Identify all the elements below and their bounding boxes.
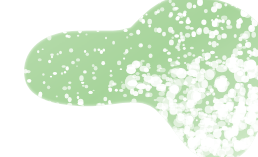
speckle-dot	[92, 72, 95, 75]
speckle-dot	[184, 62, 186, 64]
speckle-dot	[204, 9, 208, 13]
speckle-dot	[208, 85, 212, 90]
blob-artwork	[0, 0, 258, 157]
dissolve-blotch	[136, 76, 141, 81]
speckle-dot	[196, 29, 202, 35]
speckle-dot	[176, 16, 180, 19]
speckle-dot	[177, 48, 180, 51]
speckle-dot	[226, 19, 230, 25]
speckle-dot	[240, 33, 247, 38]
speckle-dot	[101, 61, 105, 65]
dissolve-blotch	[213, 104, 221, 111]
speckle-dot	[86, 52, 89, 56]
speckle-dot	[88, 91, 92, 94]
speckle-dot	[124, 29, 128, 32]
speckle-dot	[100, 50, 103, 54]
speckle-dot	[61, 72, 63, 74]
dissolve-blotch	[239, 106, 246, 113]
speckle-dot	[238, 43, 242, 47]
speckle-dot	[171, 30, 174, 34]
speckle-dot	[183, 97, 187, 101]
speckle-dot	[77, 35, 79, 37]
dissolve-blotch	[222, 143, 229, 148]
speckle-dot	[50, 76, 52, 78]
speckle-dot	[92, 64, 95, 67]
speckle-dot	[245, 102, 247, 105]
speckle-dot	[129, 33, 133, 36]
dissolve-blotch	[191, 65, 198, 69]
speckle-dot	[196, 149, 202, 153]
speckle-dot	[212, 41, 217, 47]
speckle-dot	[62, 86, 67, 90]
speckle-dot	[68, 82, 71, 84]
speckle-dot	[121, 81, 123, 82]
speckle-dot	[217, 15, 219, 17]
speckle-dot	[67, 86, 71, 90]
dissolve-blotch	[136, 63, 140, 67]
speckle-dot	[221, 28, 223, 30]
speckle-dot	[94, 66, 98, 70]
speckle-dot	[166, 77, 170, 82]
speckle-dot	[196, 119, 198, 121]
dissolve-blotch	[209, 139, 220, 147]
speckle-dot	[179, 21, 184, 24]
speckle-dot	[120, 68, 122, 70]
speckle-dot	[148, 67, 151, 69]
speckle-dot	[130, 47, 132, 49]
dissolve-blotch	[145, 92, 149, 97]
speckle-dot	[222, 55, 226, 60]
speckle-dot	[83, 70, 87, 73]
speckle-dot	[178, 40, 180, 42]
speckle-dot	[209, 36, 212, 38]
speckle-dot	[94, 48, 97, 52]
dissolve-blotch	[196, 71, 205, 82]
image-canvas: Abstract organic green blob A speckled l…	[0, 0, 258, 157]
speckle-dot	[202, 53, 206, 57]
speckle-dot	[37, 50, 39, 53]
speckle-dot	[215, 18, 219, 21]
speckle-dot	[103, 97, 107, 101]
dissolve-blotch	[150, 76, 162, 87]
speckle-dot	[177, 57, 180, 59]
speckle-dot	[38, 58, 42, 61]
speckle-dot	[123, 58, 125, 60]
speckle-dot	[221, 33, 227, 38]
speckle-dot	[149, 54, 153, 59]
dissolve-blotch	[126, 66, 136, 74]
speckle-dot	[198, 153, 201, 157]
speckle-dot	[210, 51, 215, 55]
dissolve-blotch	[222, 126, 226, 131]
speckle-dot	[148, 45, 152, 49]
dissolve-blotch	[194, 92, 206, 99]
speckle-dot	[236, 19, 242, 24]
speckle-dot	[206, 101, 209, 105]
speckle-dot	[235, 83, 240, 90]
dissolve-blotch	[234, 96, 243, 102]
speckle-dot	[245, 43, 249, 47]
dissolve-blotch	[161, 103, 168, 109]
speckle-dot	[245, 40, 247, 42]
speckle-dot	[48, 60, 51, 63]
speckle-dot	[117, 61, 121, 66]
dissolve-blotch	[214, 83, 219, 88]
speckle-dot	[64, 71, 66, 73]
speckle-dot	[186, 63, 190, 66]
dissolve-blotch	[139, 66, 148, 72]
dissolve-blotch	[252, 107, 256, 112]
dissolve-blotch	[242, 117, 247, 122]
speckle-dot	[191, 31, 196, 37]
speckle-dot	[180, 35, 185, 41]
speckle-dot	[221, 15, 227, 20]
speckle-dot	[42, 73, 44, 76]
speckle-dot	[171, 37, 174, 40]
dissolve-blotch	[187, 90, 191, 93]
speckle-dot	[76, 58, 80, 61]
dissolve-blotch	[212, 112, 218, 119]
speckle-dot	[185, 25, 190, 29]
dissolve-blotch	[170, 108, 178, 114]
speckle-dot	[65, 35, 68, 38]
speckle-dot	[79, 75, 83, 81]
speckle-dot	[65, 93, 69, 98]
speckle-dot	[168, 72, 170, 75]
dissolve-blotch	[244, 59, 256, 70]
